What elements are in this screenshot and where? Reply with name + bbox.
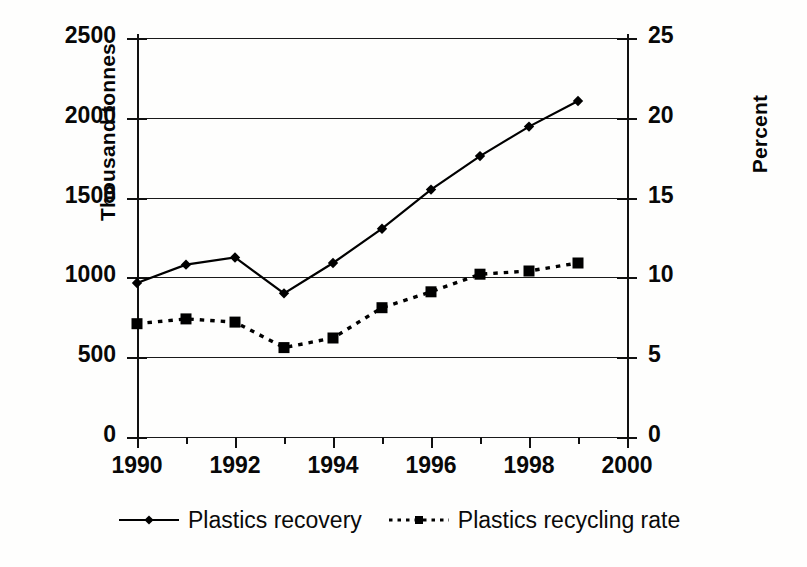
chart-figure: Thousand tonnes Percent 0500100015002000… bbox=[0, 0, 807, 567]
legend-dotted-line-square-icon bbox=[388, 512, 450, 528]
data-point-marker-square bbox=[279, 342, 290, 353]
data-point-marker-diamond bbox=[132, 278, 142, 288]
series-layer bbox=[0, 0, 807, 567]
data-point-marker-diamond bbox=[573, 96, 583, 106]
data-point-marker-diamond bbox=[524, 121, 534, 131]
legend-solid-line-diamond-icon bbox=[118, 512, 180, 528]
data-point-marker-square bbox=[524, 266, 535, 277]
legend-label: Plastics recovery bbox=[188, 507, 362, 534]
series-line-2 bbox=[137, 263, 578, 348]
data-point-marker-square bbox=[573, 258, 584, 269]
data-point-marker-square bbox=[328, 333, 339, 344]
data-point-marker-square bbox=[426, 286, 437, 297]
chart-legend: Plastics recoveryPlastics recycling rate bbox=[118, 500, 718, 540]
data-point-marker-square bbox=[475, 269, 486, 280]
data-point-marker-square bbox=[377, 302, 388, 313]
legend-item: Plastics recovery bbox=[118, 507, 362, 534]
data-point-marker-square bbox=[181, 313, 192, 324]
data-point-marker-square bbox=[132, 318, 143, 329]
data-point-marker-square bbox=[230, 317, 241, 328]
data-point-marker-diamond bbox=[181, 259, 191, 269]
legend-item: Plastics recycling rate bbox=[388, 507, 680, 534]
series-line-1 bbox=[137, 101, 578, 293]
legend-label: Plastics recycling rate bbox=[458, 507, 680, 534]
